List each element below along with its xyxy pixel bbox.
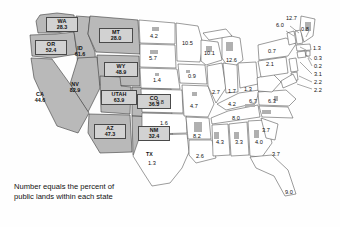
state-value-pa: 2.1 [266, 61, 274, 67]
state-value-la: 2.6 [196, 153, 204, 159]
public-land-patch [150, 50, 158, 54]
base-state-shapes [30, 13, 315, 196]
map-caption: Number equals the percent of public land… [14, 182, 194, 203]
state-value-il: 2.7 [212, 89, 220, 95]
state-value-ct: 0.3 [314, 55, 322, 61]
state-value-mo: 4.7 [190, 103, 198, 109]
state-value-ar: 8.2 [193, 133, 201, 139]
state-value-fl: 9.0 [285, 189, 293, 195]
state-value-me: 0.8 [301, 26, 309, 32]
public-land-patch [192, 92, 197, 96]
public-land-patch [158, 95, 161, 98]
state-value-nc: 3.7 [262, 127, 270, 133]
state-value-va: 6.3 [268, 98, 276, 104]
state-value-in: 1.7 [228, 88, 236, 94]
state-value-nd: 4.2 [150, 33, 158, 39]
state-shape-sd [140, 44, 176, 68]
state-abbr-tx: TX [146, 151, 153, 157]
state-value-sd: 5.7 [149, 55, 157, 61]
state-shape-az [88, 114, 132, 153]
state-value-oh: 1.3 [244, 86, 252, 92]
state-value-mn: 10.5 [182, 40, 193, 46]
state-shape-tx [133, 130, 189, 186]
state-shape-nd [139, 20, 175, 44]
state-value-al: 3.3 [235, 139, 243, 145]
state-shape-mt [88, 16, 140, 54]
state-value-ga: 4.0 [255, 139, 263, 145]
public-land-patch [194, 122, 202, 132]
state-value-vt: 6.0 [276, 22, 284, 28]
state-value-md: 2.2 [314, 87, 322, 93]
public-land-patch [262, 110, 271, 114]
state-value-sc: 3.7 [272, 151, 280, 157]
leader-line [299, 76, 312, 82]
state-value-ky: 4.2 [228, 101, 236, 107]
leader-line [300, 62, 312, 74]
state-shape-or [30, 32, 77, 58]
state-value-nj: 3.1 [314, 71, 322, 77]
caption-line-2: public lands within each state [14, 192, 194, 202]
state-value-nh: 12.7 [286, 15, 297, 21]
state-shape-ct [297, 51, 306, 58]
state-value-tn: 8.0 [232, 115, 240, 121]
public-land-patch [245, 104, 255, 107]
state-value-ny: 0.7 [268, 48, 276, 54]
state-shape-mo [182, 85, 214, 117]
state-shape-nj [289, 58, 298, 72]
public-land-patch [234, 132, 239, 139]
us-public-lands-map: WA 28.3 OR 52.4 ID 61.6 MT 28.0 WY 48.9 … [0, 0, 340, 227]
public-land-patch [214, 132, 219, 139]
state-shape-pa [258, 57, 288, 77]
state-shape-oh [238, 62, 258, 88]
state-shape-ma [296, 44, 311, 51]
state-value-ms: 4.3 [216, 139, 224, 145]
state-value-ma: 1.3 [313, 45, 321, 51]
public-land-patch [152, 27, 159, 31]
state-value-wv: 6.7 [249, 98, 257, 104]
state-value-wi: 10.1 [204, 50, 215, 56]
public-land-patch [226, 42, 233, 51]
state-value-ri: 0.2 [314, 63, 322, 69]
state-value-ok: 1.6 [160, 120, 168, 126]
caption-line-1: Number equals the percent of [14, 182, 194, 192]
state-value-ne: 1.4 [153, 77, 161, 83]
state-value-ks: 0.8 [156, 99, 164, 105]
public-land-patch [254, 130, 259, 138]
public-land-patch [155, 73, 159, 76]
state-shape-la [189, 140, 216, 163]
leader-line [297, 84, 312, 89]
state-value-ia: 0.9 [188, 73, 196, 79]
state-value-de: 2.2 [314, 79, 322, 85]
state-value-tx: 1.3 [148, 160, 156, 166]
state-shape-wa [36, 13, 76, 33]
state-value-mi: 12.6 [226, 57, 237, 63]
